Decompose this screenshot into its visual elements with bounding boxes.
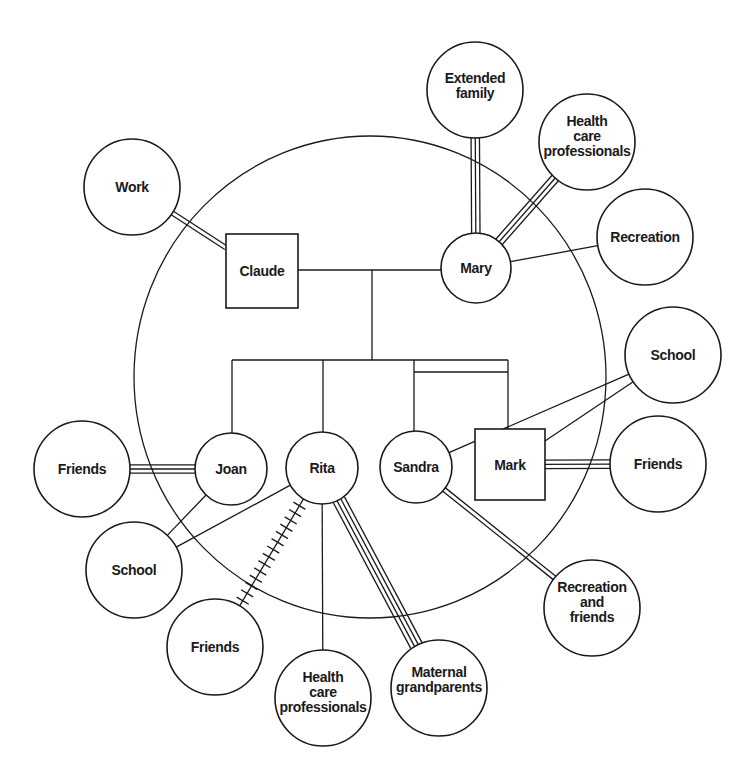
member-label-joan: Joan — [215, 462, 246, 477]
connection-health_care_bottom-to-rita — [322, 504, 323, 650]
system-label-recreation-friends: Recreationandfriends — [557, 580, 626, 625]
system-label-extended-family-line: family — [445, 86, 506, 101]
system-label-school-right-line: School — [651, 348, 696, 363]
connection-health_care_top-to-mary — [496, 175, 558, 244]
connection-friends_left-to-joan — [130, 465, 195, 473]
system-label-health-care-bottom: Healthcareprofessionals — [279, 670, 366, 715]
system-label-maternal-grandparents-line: Maternal — [396, 665, 482, 680]
system-label-health-care-bottom-line: Health — [279, 670, 366, 685]
member-label-sandra: Sandra — [393, 460, 439, 475]
system-label-health-care-bottom-line: professionals — [279, 700, 366, 715]
member-label-claude: Claude — [240, 264, 285, 279]
member-label-rita: Rita — [309, 461, 334, 476]
connection-extended_family-to-mary — [471, 138, 480, 233]
system-label-recreation-friends-line: friends — [557, 610, 626, 625]
system-label-extended-family: Extendedfamily — [445, 71, 506, 101]
connection-friends_bottom-to-rita — [237, 499, 306, 606]
member-label-mary: Mary — [460, 261, 491, 276]
connection-recreation_friends-to-sandra — [443, 488, 556, 580]
system-label-friends-bottom: Friends — [191, 640, 239, 655]
member-label-mark: Mark — [494, 457, 525, 472]
system-label-school-left-line: School — [112, 563, 157, 578]
connection-maternal_grandparents-to-rita — [333, 497, 422, 649]
system-label-work-line: Work — [115, 180, 149, 195]
ecomap-diagram — [0, 0, 755, 784]
system-label-extended-family-line: Extended — [445, 71, 506, 86]
connection-friends_right-to-mark — [545, 460, 610, 469]
system-label-maternal-grandparents-line: grandparents — [396, 680, 482, 695]
system-label-health-care-top-line: Health — [543, 114, 630, 129]
system-label-health-care-top-line: care — [543, 129, 630, 144]
system-label-maternal-grandparents: Maternalgrandparents — [396, 665, 482, 695]
system-label-school-right: School — [651, 348, 696, 363]
system-label-work: Work — [115, 180, 149, 195]
connection-work-to-claude — [171, 211, 227, 249]
connections — [130, 138, 633, 650]
system-label-recreation-line: Recreation — [610, 230, 679, 245]
system-label-recreation-friends-line: and — [557, 595, 626, 610]
system-label-health-care-bottom-line: care — [279, 685, 366, 700]
connection-school_right-to-mark — [545, 382, 633, 441]
system-label-friends-left: Friends — [58, 462, 106, 477]
system-label-recreation-friends-line: Recreation — [557, 580, 626, 595]
system-label-health-care-top: Healthcareprofessionals — [543, 114, 630, 159]
system-label-health-care-top-line: professionals — [543, 144, 630, 159]
system-label-friends-left-line: Friends — [58, 462, 106, 477]
system-label-school-left: School — [112, 563, 157, 578]
system-label-friends-bottom-line: Friends — [191, 640, 239, 655]
system-label-friends-right: Friends — [634, 457, 682, 472]
system-label-friends-right-line: Friends — [634, 457, 682, 472]
system-label-recreation: Recreation — [610, 230, 679, 245]
connection-recreation-to-mary — [510, 246, 597, 262]
